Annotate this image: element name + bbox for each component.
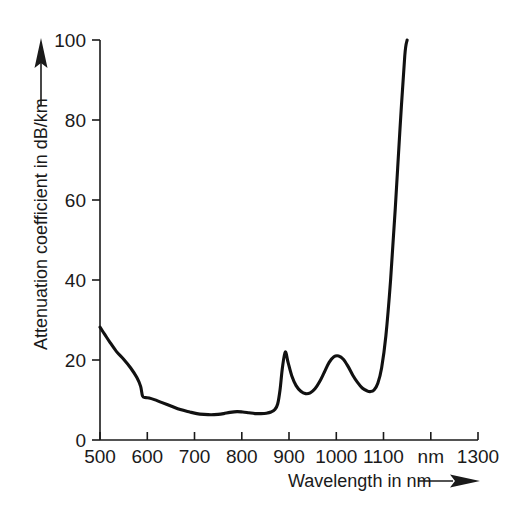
attenuation-curve xyxy=(100,40,407,415)
x-tick-label-1000: 1000 xyxy=(315,446,357,467)
y-tick-label-60: 60 xyxy=(65,190,86,211)
x-tick-label-900: 900 xyxy=(273,446,305,467)
x-tick-label-800: 800 xyxy=(226,446,258,467)
x-tick-label-600: 600 xyxy=(131,446,163,467)
x-tick-label-500: 500 xyxy=(84,446,116,467)
x-axis-title: Wavelength in nm xyxy=(288,471,431,491)
x-tick-label-1300: 1300 xyxy=(457,446,499,467)
x-tick-marks xyxy=(100,432,478,440)
y-tick-label-20: 20 xyxy=(65,350,86,371)
plot-canvas: 100 80 60 40 20 0 500 600 700 800 900 10… xyxy=(0,0,510,514)
y-axis-arrow-icon xyxy=(35,38,48,105)
y-tick-marks xyxy=(92,40,100,440)
attenuation-chart-figure: 100 80 60 40 20 0 500 600 700 800 900 10… xyxy=(0,0,510,514)
y-tick-label-40: 40 xyxy=(65,270,86,291)
y-axis-title: Attenuation coefficient in dB/km xyxy=(31,98,51,350)
y-tick-label-100: 100 xyxy=(54,30,86,51)
x-tick-label-700: 700 xyxy=(179,446,211,467)
x-tick-label-1100: 1100 xyxy=(363,446,404,467)
y-tick-label-80: 80 xyxy=(65,110,86,131)
x-axis-unit-label: nm xyxy=(418,446,444,467)
